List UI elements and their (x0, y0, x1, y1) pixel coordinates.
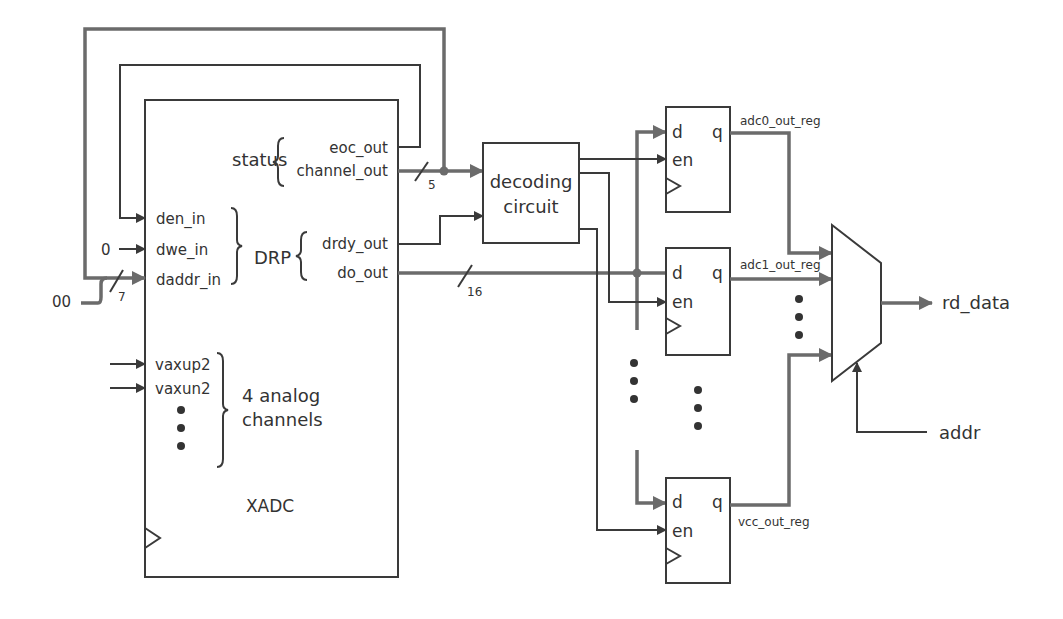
analog-group-line1: 4 analog (242, 385, 320, 406)
port-channel-out: channel_out (297, 162, 389, 181)
drdy-wire (398, 216, 483, 244)
channel-junction (440, 167, 449, 176)
reg1-q-label: q (712, 263, 723, 283)
xadc-block-diagram: XADC status eoc_out channel_out den_in d… (0, 0, 1063, 619)
adc0-out-reg-label: adc0_out_reg (740, 114, 821, 128)
adc0-out-bus (730, 133, 832, 253)
do-to-vcc-bus (637, 450, 666, 503)
register-ellipsis (694, 386, 702, 430)
port-dwe-in: dwe_in (156, 241, 208, 260)
port-do-out: do_out (337, 264, 388, 283)
do-bus-slash (458, 265, 472, 287)
analog-ellipsis (177, 406, 185, 450)
vcc-out-bus (730, 355, 832, 505)
channel-bus-width: 5 (428, 178, 436, 192)
reg2-en-label: en (672, 521, 693, 541)
adc1-out-reg-label: adc1_out_reg (740, 258, 821, 272)
reg0-q-label: q (712, 122, 723, 142)
decoder-label-line1: decoding (490, 171, 573, 192)
register-vcc: d en q (666, 478, 730, 583)
daddr-constant: 00 (52, 293, 71, 311)
dwe-constant: 0 (101, 241, 111, 259)
do-to-adc0-bus (637, 132, 666, 330)
port-eoc-out: eoc_out (329, 139, 388, 158)
register-adc1: d en q (666, 248, 730, 355)
reg2-q-label: q (712, 492, 723, 512)
decoding-circuit-block (483, 143, 579, 243)
rd-data-label: rd_data (942, 292, 1010, 314)
reg0-en-label: en (672, 150, 693, 170)
xadc-title: XADC (246, 496, 294, 516)
drp-label: DRP (254, 247, 291, 268)
reg1-d-label: d (672, 263, 683, 283)
port-drdy-out: drdy_out (322, 235, 388, 254)
mux (832, 225, 881, 381)
mux-input-ellipsis (795, 295, 803, 339)
port-daddr-in: daddr_in (156, 271, 221, 290)
do-bus-width: 16 (467, 285, 482, 299)
addr-wire (857, 363, 927, 432)
daddr-constant-wire (81, 278, 107, 303)
daddr-bus-slash (110, 270, 123, 292)
reg1-en-label: en (672, 292, 693, 312)
register-input-ellipsis (630, 359, 638, 403)
port-den-in: den_in (156, 210, 205, 229)
port-vaxup2: vaxup2 (155, 356, 211, 374)
reg2-d-label: d (672, 492, 683, 512)
daddr-bus-width: 7 (118, 290, 126, 304)
status-label: status (232, 149, 287, 170)
port-vaxun2: vaxun2 (155, 380, 211, 398)
reg0-d-label: d (672, 122, 683, 142)
addr-label: addr (939, 422, 981, 443)
en1-wire (579, 173, 666, 302)
vcc-out-reg-label: vcc_out_reg (738, 515, 810, 529)
analog-group-line2: channels (242, 409, 323, 430)
register-adc0: d en q (666, 107, 730, 212)
decoder-label-line2: circuit (503, 196, 558, 217)
